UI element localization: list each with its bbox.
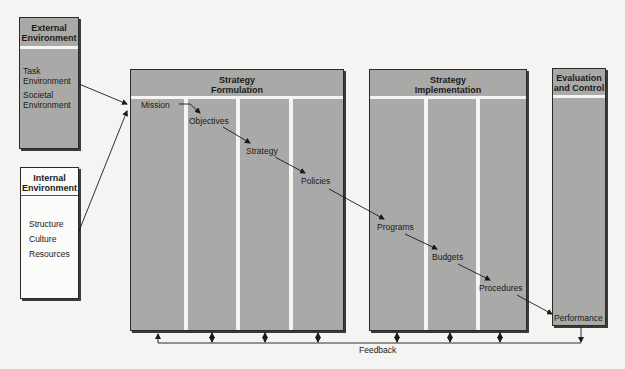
bidirectional-arrows (212, 333, 500, 342)
flow-arrows (0, 0, 625, 369)
